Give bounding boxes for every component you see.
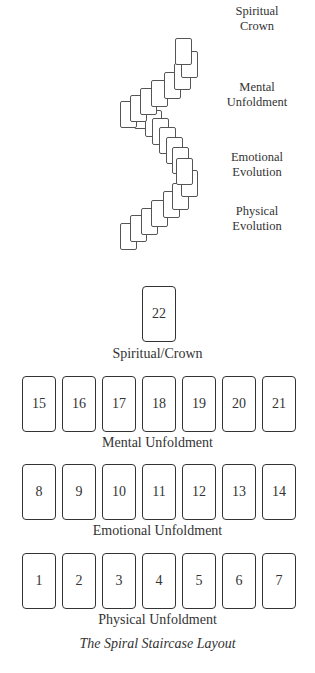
card-number: 3	[116, 573, 123, 589]
crown-label: Spiritual/Crown	[0, 346, 315, 362]
card-number: 18	[152, 396, 166, 412]
layout-card-12: 12	[182, 464, 216, 520]
card-number: 5	[196, 573, 203, 589]
spiral-label: SpiritualCrown	[212, 4, 302, 34]
spiral-card-22	[175, 38, 192, 65]
row-label: Emotional Unfoldment	[0, 523, 315, 539]
layout-card-15: 15	[22, 376, 56, 432]
card-number: 15	[32, 396, 46, 412]
layout-card-18: 18	[142, 376, 176, 432]
spiral-diagram: SpiritualCrownMentalUnfoldmentEmotionalE…	[0, 0, 315, 270]
layout-card-5: 5	[182, 553, 216, 609]
card-number: 9	[76, 484, 83, 500]
card-number: 14	[272, 484, 286, 500]
card-number: 2	[76, 573, 83, 589]
spiral-label-line2: Evolution	[212, 165, 302, 180]
row-label: Mental Unfoldment	[0, 435, 315, 451]
layout-card-16: 16	[62, 376, 96, 432]
spiral-label: MentalUnfoldment	[212, 80, 302, 110]
layout-card-7: 7	[262, 553, 296, 609]
card-number: 13	[232, 484, 246, 500]
card-number: 1	[36, 573, 43, 589]
row-label: Physical Unfoldment	[0, 612, 315, 628]
layout-card-11: 11	[142, 464, 176, 520]
figure-caption: The Spiral Staircase Layout	[0, 636, 315, 652]
card-number: 20	[232, 396, 246, 412]
card-number: 4	[156, 573, 163, 589]
layout-card-13: 13	[222, 464, 256, 520]
card-number: 16	[72, 396, 86, 412]
card-number: 12	[192, 484, 206, 500]
spiral-label-line1: Mental	[212, 80, 302, 95]
layout-card-10: 10	[102, 464, 136, 520]
spiral-label-line2: Crown	[212, 19, 302, 34]
card-number: 7	[276, 573, 283, 589]
layout-card-9: 9	[62, 464, 96, 520]
spiral-label: PhysicalEvolution	[212, 204, 302, 234]
card-number: 6	[236, 573, 243, 589]
card-number: 21	[272, 396, 286, 412]
layout-card-8: 8	[22, 464, 56, 520]
layout-card-22: 22	[142, 286, 176, 342]
layout-card-17: 17	[102, 376, 136, 432]
layout-card-20: 20	[222, 376, 256, 432]
layout-card-14: 14	[262, 464, 296, 520]
layout-card-1: 1	[22, 553, 56, 609]
spiral-label-line2: Unfoldment	[212, 95, 302, 110]
card-number: 22	[152, 306, 166, 322]
spiral-card-8	[176, 158, 193, 185]
spiral-label-line1: Emotional	[212, 150, 302, 165]
layout-card-19: 19	[182, 376, 216, 432]
layout-card-2: 2	[62, 553, 96, 609]
card-number: 17	[112, 396, 126, 412]
card-number: 10	[112, 484, 126, 500]
layout-card-4: 4	[142, 553, 176, 609]
spiral-label-line2: Evolution	[212, 219, 302, 234]
spiral-label-line1: Spiritual	[212, 4, 302, 19]
spiral-label-line1: Physical	[212, 204, 302, 219]
layout-card-21: 21	[262, 376, 296, 432]
layout-card-3: 3	[102, 553, 136, 609]
layout-card-6: 6	[222, 553, 256, 609]
card-number: 11	[152, 484, 165, 500]
spiral-label: EmotionalEvolution	[212, 150, 302, 180]
card-number: 8	[36, 484, 43, 500]
card-number: 19	[192, 396, 206, 412]
